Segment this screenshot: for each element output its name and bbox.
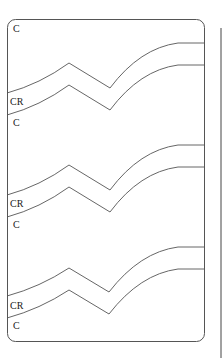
- band2-upper-curve: [7, 145, 204, 195]
- frame: [8, 20, 205, 342]
- band3-upper-curve: [7, 247, 204, 296]
- band1-lower-curve: [7, 65, 204, 115]
- band2-lower-curve: [7, 167, 204, 217]
- band3-lower-curve: [7, 269, 204, 318]
- diagram-canvas: [0, 0, 222, 358]
- label-c-2: C: [13, 219, 20, 230]
- label-c-1: C: [13, 117, 20, 128]
- label-cr-2: CR: [10, 198, 23, 209]
- label-cr-3: CR: [10, 300, 23, 311]
- label-cr-1: CR: [10, 96, 23, 107]
- label-c-3: C: [13, 320, 20, 331]
- band1-upper-curve: [7, 43, 204, 93]
- label-c-top: C: [13, 23, 20, 34]
